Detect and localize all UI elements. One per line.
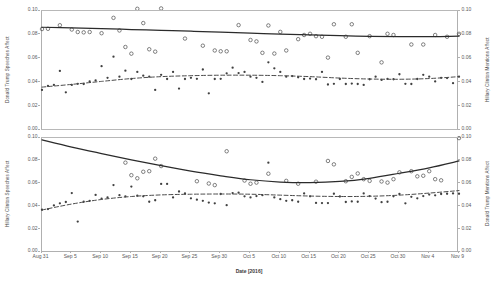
data-point-open bbox=[284, 48, 288, 52]
plot-area-top bbox=[42, 10, 459, 129]
tick-mark bbox=[458, 228, 460, 229]
data-point-filled bbox=[422, 194, 424, 196]
data-point-filled bbox=[165, 77, 167, 79]
data-point-filled bbox=[159, 182, 161, 184]
data-point-open bbox=[379, 179, 383, 183]
data-point-filled bbox=[410, 82, 412, 84]
data-point-filled bbox=[207, 201, 209, 203]
data-point-filled bbox=[249, 196, 251, 198]
data-point-filled bbox=[291, 199, 293, 201]
data-point-open bbox=[195, 179, 199, 183]
data-point-filled bbox=[255, 194, 257, 196]
tick-mark bbox=[38, 159, 40, 160]
x-tick-label: Sep 25 bbox=[175, 253, 203, 259]
data-point-filled bbox=[439, 192, 441, 194]
data-point-filled bbox=[177, 87, 179, 89]
tick-mark bbox=[38, 205, 40, 206]
y-tick-label-right: 0.10 bbox=[462, 6, 480, 12]
series-filled bbox=[40, 161, 459, 222]
x-tick-label: Oct 20 bbox=[324, 253, 352, 259]
data-point-filled bbox=[225, 72, 227, 74]
tick-mark bbox=[458, 137, 460, 138]
tick-mark bbox=[38, 182, 40, 183]
y-tick-label-right: 0.06 bbox=[462, 179, 480, 185]
data-point-filled bbox=[285, 199, 287, 201]
data-point-filled bbox=[94, 193, 96, 195]
data-point-filled bbox=[416, 197, 418, 199]
data-point-filled bbox=[130, 185, 132, 187]
tick-mark bbox=[38, 81, 40, 82]
data-point-open bbox=[224, 149, 228, 153]
data-point-filled bbox=[64, 200, 66, 202]
trendline-solid bbox=[42, 27, 459, 36]
data-point-open bbox=[213, 183, 217, 187]
data-point-filled bbox=[112, 55, 114, 57]
data-point-open bbox=[129, 173, 133, 177]
data-point-open bbox=[207, 181, 211, 185]
y-tick-label-right: 0.02 bbox=[462, 225, 480, 231]
data-point-filled bbox=[434, 80, 436, 82]
data-point-filled bbox=[428, 75, 430, 77]
data-point-open bbox=[427, 169, 431, 173]
data-point-open bbox=[355, 171, 359, 175]
y-tick-label-right: 0.04 bbox=[462, 202, 480, 208]
data-point-filled bbox=[273, 67, 275, 69]
axis-line bbox=[41, 137, 458, 138]
data-point-filled bbox=[118, 75, 120, 77]
x-tick-label: Nov 9 bbox=[444, 253, 472, 259]
data-point-open bbox=[266, 23, 270, 27]
x-tick-label: Nov 4 bbox=[414, 253, 442, 259]
data-point-open bbox=[421, 174, 425, 178]
x-tick-label: Sep 30 bbox=[205, 253, 233, 259]
y-axis-title-bottom-right: Donald Trump Mentions Affect bbox=[485, 161, 490, 226]
x-tick-label: Oct 10 bbox=[265, 253, 293, 259]
data-point-filled bbox=[261, 80, 263, 82]
data-point-filled bbox=[314, 78, 316, 80]
data-point-filled bbox=[237, 71, 239, 73]
data-point-filled bbox=[362, 83, 364, 85]
data-point-filled bbox=[320, 201, 322, 203]
data-point-filled bbox=[374, 197, 376, 199]
data-point-filled bbox=[249, 75, 251, 77]
data-point-open bbox=[81, 30, 85, 34]
data-point-open bbox=[147, 169, 151, 173]
data-point-filled bbox=[112, 183, 114, 185]
tick-mark bbox=[458, 182, 460, 183]
data-point-open bbox=[99, 31, 103, 35]
y-tick-label-left: 0.10 bbox=[20, 6, 38, 12]
data-point-open bbox=[278, 30, 282, 34]
data-point-open bbox=[123, 45, 127, 49]
data-point-open bbox=[355, 51, 359, 55]
data-point-filled bbox=[362, 192, 364, 194]
data-point-open bbox=[141, 170, 145, 174]
data-point-filled bbox=[434, 194, 436, 196]
y-tick-label-left: 0.04 bbox=[20, 202, 38, 208]
tick-mark bbox=[38, 57, 40, 58]
data-point-filled bbox=[195, 77, 197, 79]
plot-area-bottom bbox=[42, 137, 459, 251]
data-point-open bbox=[141, 21, 145, 25]
x-tick-label: Aug 31 bbox=[27, 253, 55, 259]
data-point-filled bbox=[279, 70, 281, 72]
y-tick-label-right: 0.10 bbox=[462, 133, 480, 139]
data-point-open bbox=[272, 51, 276, 55]
data-point-filled bbox=[267, 61, 269, 63]
data-point-filled bbox=[106, 76, 108, 78]
tick-mark bbox=[458, 57, 460, 58]
data-point-filled bbox=[142, 74, 144, 76]
data-point-open bbox=[248, 38, 252, 42]
data-point-open bbox=[415, 174, 419, 178]
data-point-filled bbox=[297, 200, 299, 202]
tick-mark bbox=[38, 105, 40, 106]
data-point-open bbox=[254, 180, 258, 184]
y-tick-label-left: 0.08 bbox=[20, 30, 38, 36]
data-point-open bbox=[75, 30, 79, 34]
data-point-open bbox=[254, 39, 258, 43]
data-point-filled bbox=[171, 70, 173, 72]
data-point-open bbox=[129, 51, 133, 55]
data-point-filled bbox=[195, 198, 197, 200]
data-point-filled bbox=[154, 88, 156, 90]
chart-container: Donald Trump Speeches Affect Hillary Cli… bbox=[0, 0, 500, 287]
data-point-filled bbox=[124, 69, 126, 71]
data-point-filled bbox=[445, 192, 447, 194]
